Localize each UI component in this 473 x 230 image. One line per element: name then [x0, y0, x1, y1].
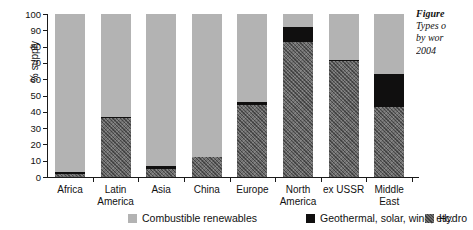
x-axis-tick — [93, 178, 94, 182]
x-axis-tick — [230, 178, 231, 182]
bar-segment-geo — [146, 166, 176, 169]
y-axis-tick — [43, 96, 47, 97]
y-axis-tick — [43, 128, 47, 129]
bar-segment-comb — [101, 14, 131, 117]
legend-swatch-geothermal-icon — [306, 214, 315, 223]
bar-segment-hydro — [237, 105, 267, 177]
bar-segment-comb — [283, 14, 313, 27]
bar-segment-hydro — [55, 174, 85, 177]
x-axis-line — [47, 177, 419, 178]
y-axis-tick-label: 0 — [15, 173, 41, 182]
plot-area: 0102030405060708090100 — [47, 14, 419, 178]
y-axis-tick-label: 40 — [15, 107, 41, 116]
x-axis-category-label: Middle East — [358, 184, 420, 207]
y-axis-tick — [43, 47, 47, 48]
figure-caption: Figure Types o by wor 2004 — [416, 8, 473, 57]
bar-segment-hydro — [146, 169, 176, 177]
figure-caption-body: Types o by wor 2004 — [416, 20, 473, 57]
y-axis-tick — [43, 144, 47, 145]
y-axis-tick-label: 80 — [15, 42, 41, 51]
bar-segment-comb — [146, 14, 176, 166]
x-axis-tick — [184, 178, 185, 182]
y-axis-tick-label: 20 — [15, 140, 41, 149]
y-axis-tick — [43, 14, 47, 15]
bar-segment-geo — [55, 172, 85, 174]
bar-segment-hydro — [101, 118, 131, 177]
figure-caption-title: Figure — [416, 8, 473, 20]
bar-segment-comb — [374, 14, 404, 74]
bar-segment-comb — [192, 14, 222, 157]
bar-segment-geo — [374, 74, 404, 107]
y-axis-tick — [43, 30, 47, 31]
legend-item-combustible[interactable]: Combustible renewables — [128, 212, 257, 224]
bar-segment-comb — [55, 14, 85, 172]
y-axis-tick-label: 10 — [15, 156, 41, 165]
y-axis-line — [47, 14, 48, 178]
legend-label: Hydro — [439, 212, 467, 224]
y-axis-tick — [43, 177, 47, 178]
y-axis-tick-label: 30 — [15, 124, 41, 133]
y-axis-tick-label: 70 — [15, 58, 41, 67]
bar-segment-hydro — [329, 61, 359, 177]
legend-swatch-hydro-icon — [425, 214, 434, 223]
chart-legend: Combustible renewablesGeothermal, solar,… — [0, 212, 473, 230]
x-axis-tick — [412, 178, 413, 182]
bar-segment-hydro — [283, 42, 313, 177]
bar-segment-geo — [237, 102, 267, 105]
bar-segment-geo — [329, 60, 359, 62]
y-axis-tick-label: 90 — [15, 26, 41, 35]
x-axis-tick — [138, 178, 139, 182]
y-axis-tick-label: 60 — [15, 75, 41, 84]
bar-segment-geo — [283, 27, 313, 42]
bar-segment-comb — [237, 14, 267, 102]
y-axis-tick — [43, 112, 47, 113]
legend-swatch-combustible-icon — [128, 214, 137, 223]
legend-label: Combustible renewables — [142, 212, 257, 224]
legend-item-hydro[interactable]: Hydro — [425, 212, 467, 224]
y-axis-tick-label: 100 — [15, 10, 41, 19]
y-axis-tick — [43, 161, 47, 162]
y-axis-tick-label: 50 — [15, 91, 41, 100]
x-axis-tick — [321, 178, 322, 182]
x-axis-tick — [366, 178, 367, 182]
x-axis-tick — [275, 178, 276, 182]
bar-segment-hydro — [192, 157, 222, 177]
bar-segment-geo — [101, 117, 131, 119]
figure-root: % supply 0102030405060708090100 Combusti… — [0, 0, 473, 230]
bar-segment-hydro — [374, 107, 404, 177]
y-axis-tick — [43, 79, 47, 80]
y-axis-tick — [43, 63, 47, 64]
bar-segment-comb — [329, 14, 359, 60]
